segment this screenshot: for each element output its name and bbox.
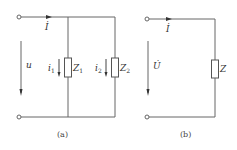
i1-label: i1: [48, 63, 55, 74]
terminal-bottom-b: [145, 115, 149, 119]
caption-b: (b): [180, 130, 191, 139]
voltage-label-b: U̇: [153, 60, 161, 71]
i2-label: i2: [95, 63, 102, 74]
voltage-label-a: u: [26, 60, 32, 70]
terminal-bottom-a: [17, 115, 21, 119]
impedance-z1: [65, 58, 72, 77]
voltage-arrowhead-b: [147, 89, 150, 96]
terminal-top-b: [145, 17, 149, 21]
z1-label: Z1: [72, 63, 83, 74]
i1-arrowhead: [58, 72, 61, 77]
terminal-top-a: [17, 15, 21, 19]
current-label-a: İ: [44, 21, 49, 32]
z2-label: Z2: [119, 63, 130, 74]
circuit-a: [17, 15, 119, 119]
impedance-z2: [112, 58, 119, 77]
caption-a: (a): [57, 130, 68, 139]
voltage-arrowhead-a: [20, 89, 23, 96]
z-label: Z: [219, 64, 227, 74]
current-label-b: İ: [165, 23, 170, 34]
impedance-z: [212, 60, 219, 78]
i2-arrowhead: [105, 72, 108, 77]
current-arrowhead-b: [166, 17, 172, 21]
circuit-diagrams: İ u i1 Z1 i2 Z2 (a) İ U̇ Z (b): [0, 0, 237, 150]
current-arrowhead-a: [46, 15, 52, 19]
